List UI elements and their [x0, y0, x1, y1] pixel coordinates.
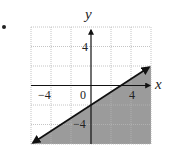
- x-tick-4: 4: [129, 88, 135, 102]
- x-tick-neg4: −4: [38, 88, 51, 102]
- inequality-graph: y x −4 0 4 4 −4: [0, 0, 170, 147]
- x-axis-label: x: [154, 76, 162, 92]
- y-tick-4: 4: [82, 40, 88, 54]
- y-tick-neg4: −4: [73, 117, 86, 131]
- origin-label: 0: [80, 88, 86, 102]
- y-axis-label: y: [83, 6, 92, 22]
